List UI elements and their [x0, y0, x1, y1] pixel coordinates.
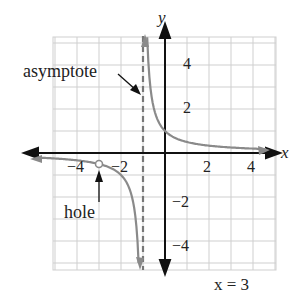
- x-axis-arrow-left-icon: [24, 148, 38, 158]
- hole-arrow-icon: [95, 170, 103, 182]
- x-tick-label: −2: [111, 158, 128, 175]
- x-tick-label: 4: [247, 158, 255, 175]
- asymptote-annotation: asymptote: [23, 61, 97, 81]
- hole-annotation: hole: [64, 202, 95, 222]
- x-tick-label: −4: [67, 158, 84, 175]
- y-tick-label: 4: [183, 55, 191, 72]
- x-tick-label: 2: [203, 158, 211, 175]
- y-tick-label: 2: [183, 99, 191, 116]
- x-axis-label: x: [280, 143, 289, 162]
- hole-marker: [96, 161, 103, 168]
- y-tick-label: −2: [172, 193, 189, 210]
- caption: x = 3: [214, 275, 249, 294]
- y-tick-label: −4: [172, 237, 189, 254]
- y-axis-arrow-down-icon: [160, 260, 170, 274]
- graph: −4 −2 2 4 4 2 −2 −4 x y asymptote hole x…: [0, 0, 300, 306]
- y-axis-label: y: [156, 8, 166, 27]
